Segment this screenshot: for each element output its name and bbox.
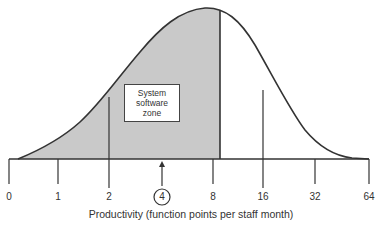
tick-label-4: 4	[159, 191, 165, 202]
tick-label-8: 8	[210, 191, 216, 202]
shaded-system-software-region	[18, 8, 220, 159]
tick-label-2: 2	[106, 191, 112, 202]
zone-line-3: zone	[125, 108, 179, 118]
system-software-zone-label: System software zone	[124, 84, 180, 122]
tick-label-0: 0	[6, 191, 12, 202]
zone-line-1: System	[125, 88, 179, 98]
zone-line-2: software	[125, 98, 179, 108]
arrow-up-icon	[159, 161, 165, 167]
tick-label-32: 32	[309, 191, 320, 202]
tick-label-16: 16	[257, 191, 268, 202]
tick-label-64: 64	[363, 191, 374, 202]
x-axis-title: Productivity (function points per staff …	[0, 208, 382, 220]
tick-label-1: 1	[55, 191, 61, 202]
